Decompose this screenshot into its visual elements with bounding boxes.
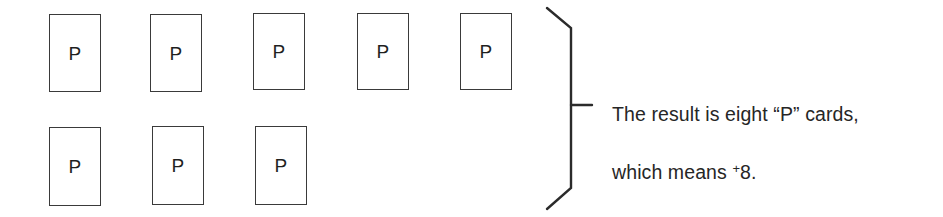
card-p-top-4: P bbox=[357, 13, 409, 90]
caption-text: The result is eight “P” cards, which mea… bbox=[612, 74, 932, 213]
card-p-bottom-3: P bbox=[255, 126, 307, 205]
p-cards-figure: P P P P P P P P The result is eight “P” … bbox=[0, 0, 943, 217]
right-curly-brace-icon bbox=[538, 0, 598, 217]
card-p-top-2: P bbox=[150, 14, 202, 92]
caption-line-2-prefix: which means bbox=[612, 161, 732, 183]
superscript-plus-sign: + bbox=[732, 161, 740, 176]
card-p-top-1: P bbox=[49, 14, 101, 92]
card-label: P bbox=[480, 42, 493, 61]
caption-line-1: The result is eight “P” cards, bbox=[612, 101, 932, 128]
card-label: P bbox=[172, 156, 185, 175]
card-label: P bbox=[377, 42, 390, 61]
card-p-top-3: P bbox=[253, 13, 305, 90]
card-p-bottom-1: P bbox=[49, 127, 101, 206]
card-label: P bbox=[69, 44, 82, 63]
card-label: P bbox=[69, 157, 82, 176]
caption-line-2-suffix: 8. bbox=[740, 161, 756, 183]
brace-container bbox=[538, 0, 598, 217]
card-p-bottom-2: P bbox=[152, 126, 204, 205]
card-label: P bbox=[170, 44, 183, 63]
card-label: P bbox=[275, 156, 288, 175]
caption-line-2: which means +8. bbox=[612, 155, 932, 186]
card-p-top-5: P bbox=[460, 13, 512, 90]
card-label: P bbox=[273, 42, 286, 61]
